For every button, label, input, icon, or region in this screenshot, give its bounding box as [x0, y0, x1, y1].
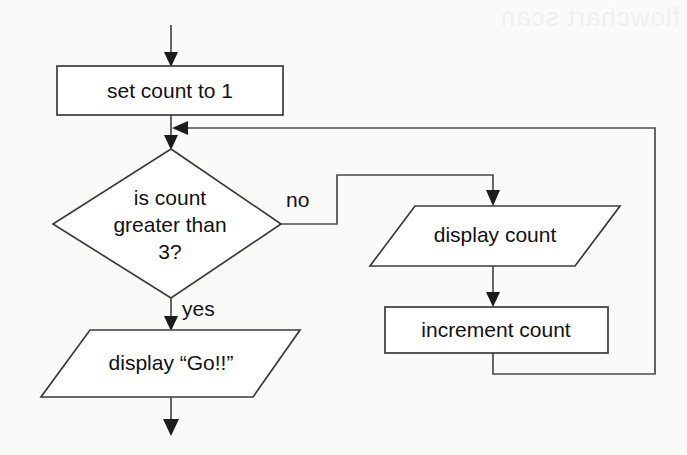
- node-display-go[interactable]: display “Go!!”: [41, 330, 300, 397]
- edge-set-to-decision: [164, 115, 178, 150]
- node-set-count[interactable]: set count to 1: [57, 66, 283, 115]
- entry-arrowhead: [164, 52, 178, 67]
- set-to-decision-arrowhead: [164, 135, 178, 150]
- edge-yes-branch: [164, 298, 178, 331]
- decision-label-line3: 3?: [158, 240, 181, 263]
- node-decision[interactable]: is count greater than 3?: [53, 149, 281, 298]
- decision-label-line1: is count: [134, 186, 207, 209]
- yes-branch-arrowhead: [164, 316, 178, 331]
- flowchart-svg: set count to 1 is count greater than 3? …: [0, 0, 687, 455]
- loop-back-arrowhead: [172, 121, 188, 135]
- node-increment-count[interactable]: increment count: [385, 307, 608, 353]
- edge-label-yes: yes: [182, 297, 215, 320]
- display-go-label: display “Go!!”: [109, 351, 234, 374]
- increment-count-label: increment count: [421, 318, 571, 341]
- set-count-label: set count to 1: [107, 79, 233, 102]
- exit-arrowhead: [163, 419, 179, 436]
- flowchart-canvas: flowchart scan: [0, 0, 687, 455]
- display-to-increment-arrowhead: [486, 292, 500, 307]
- display-count-label: display count: [434, 223, 557, 246]
- node-display-count[interactable]: display count: [370, 206, 620, 266]
- edge-entry: [164, 25, 178, 67]
- edge-label-no: no: [286, 188, 309, 211]
- decision-label-line2: greater than: [113, 213, 226, 236]
- edge-exit: [163, 397, 179, 436]
- edge-display-to-increment: [486, 266, 500, 307]
- no-branch-arrowhead: [486, 190, 500, 206]
